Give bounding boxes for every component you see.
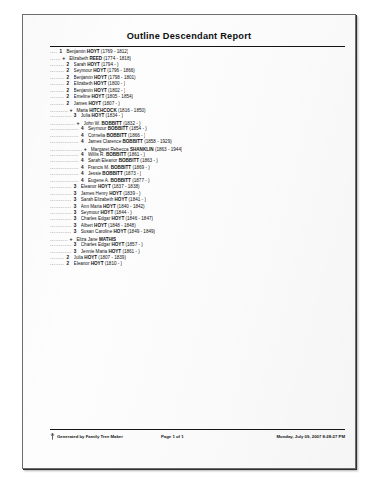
outline-leader-dots: ........ [50,101,64,107]
outline-leader-dots: ................ [50,139,79,145]
outline-leader-dots: .... [50,49,57,55]
person-name-and-dates: Benjamin HOYT (1769 - 1812) [66,49,128,55]
page-title: Outline Descendant Report [23,31,355,41]
outline-leader-dots: ............ [50,113,72,119]
person-name-and-dates: Eleanor HOYT (1810 - ) [74,261,123,267]
person-name-and-dates: Julia HOYT (1834 - ) [81,113,123,119]
report-page: Outline Descendant Report ....1Benjamin … [22,14,356,469]
outline-entry: ........2Eleanor HOYT (1810 - ) [50,261,347,267]
footer-divider [50,429,345,430]
generation-number: 2 [64,261,73,267]
family-tree-icon [50,433,55,440]
page-footer: Generated by Family Tree Maker Page 1 of… [50,431,345,441]
outline-leader-dots: ........ [50,261,64,267]
person-name-and-dates: James Clarence BOBBITT (1858 - 1929) [88,139,172,145]
footer-credit-label: Generated by Family Tree Maker [57,434,123,439]
generated-timestamp: Monday, July 09, 2007 8:28:27 PM [184,434,345,439]
title-divider [50,46,345,47]
person-name-and-dates: James HOYT (1807 - ) [74,101,120,107]
page-number: Page 1 of 1 [161,434,184,439]
descendant-outline-list: ....1Benjamin HOYT (1769 - 1812)......+E… [50,49,347,268]
person-name-and-dates: Susan Caroline HOYT (1849 - 1849) [81,229,155,235]
footer-credit: Generated by Family Tree Maker [50,433,123,440]
